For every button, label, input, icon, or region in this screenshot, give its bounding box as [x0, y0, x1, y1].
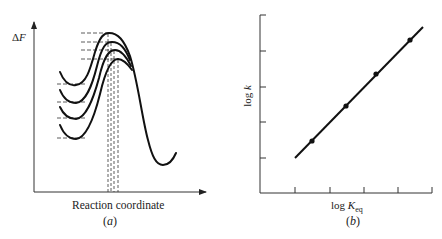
- caption-b: (b): [346, 214, 360, 229]
- y-axis-label-b: log k: [241, 85, 253, 107]
- panel-b: [260, 15, 432, 193]
- y-axis-label-a: ΔF: [12, 31, 26, 43]
- data-point: [309, 138, 314, 143]
- figure-canvas: [0, 0, 442, 239]
- data-point: [407, 37, 412, 42]
- y-ticks-b: [260, 15, 266, 158]
- x-axis-label-b: log Keq: [331, 199, 363, 214]
- data-point: [343, 103, 348, 108]
- regression-line: [295, 27, 423, 158]
- panel-a: [34, 22, 206, 192]
- x-ticks-b: [295, 187, 432, 193]
- data-point: [373, 71, 378, 76]
- x-axis-label-a: Reaction coordinate: [72, 199, 164, 211]
- caption-a: (a): [103, 214, 117, 229]
- transition-state-position-dashes: [108, 34, 118, 192]
